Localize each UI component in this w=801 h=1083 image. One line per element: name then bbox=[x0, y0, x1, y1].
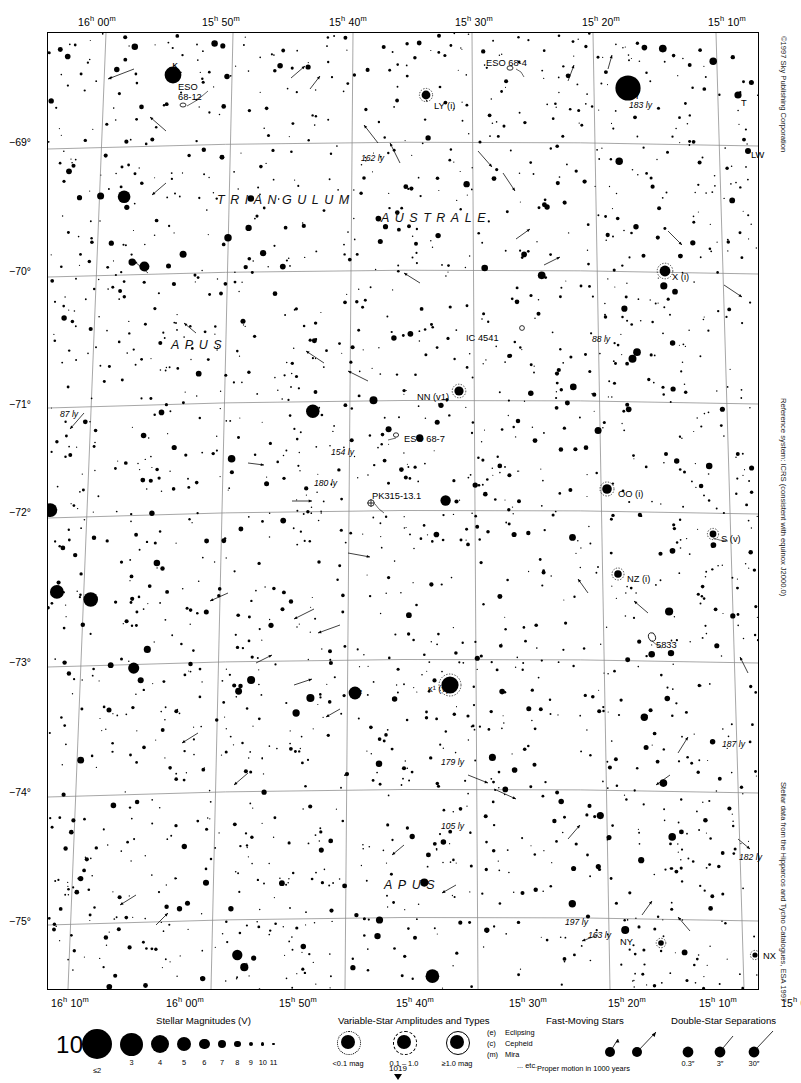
object-label-ic-4541[interactable]: IC 4541 bbox=[466, 333, 499, 343]
ra-gridlines bbox=[68, 33, 744, 989]
label-leader-lines bbox=[187, 69, 728, 648]
legend-fastmoving-symbols bbox=[596, 1028, 668, 1062]
star-chart-page: 16h 00m15h 50m15h 40m15h 30m15h 20m15h 1… bbox=[0, 0, 801, 1083]
sky-map-canvas: .grid{stroke:#8a8a8a;stroke-width:.75;fi… bbox=[48, 33, 758, 989]
legend-doublestar-label-1: 3″ bbox=[717, 1059, 724, 1068]
legend-mag-label-8: 10 bbox=[259, 1058, 267, 1067]
legend-mag-dot-3 bbox=[120, 1033, 143, 1056]
legend-fastmoving-title: Fast-Moving Stars bbox=[546, 1015, 624, 1026]
object-label--[interactable]: κ² bbox=[352, 689, 362, 700]
legend-var-dot-1 bbox=[397, 1035, 411, 1049]
legend-mag-dot-5 bbox=[177, 1037, 191, 1051]
legend-mag-label-9: 11 bbox=[270, 1058, 278, 1067]
constellation-name-australe-1: AUSTRALE bbox=[381, 211, 491, 225]
ra-tick-top-0: 16h 00m bbox=[78, 14, 116, 28]
dec-tick-3: −72° bbox=[9, 506, 31, 518]
ra-tick-top-5: 15h 10m bbox=[708, 14, 746, 28]
legend-var-amp-label-2: ≥1.0 mag bbox=[442, 1059, 473, 1068]
ra-tick-top-1: 15h 50m bbox=[202, 14, 240, 28]
distance-label-0: 162 ly bbox=[361, 153, 384, 163]
object-label--v-[interactable]: κ¹ (v) bbox=[428, 684, 449, 694]
legend-mag-dot-8 bbox=[234, 1041, 240, 1047]
legend-mag-dot-2 bbox=[82, 1029, 112, 1059]
legend-var-type-3: ... etc. bbox=[487, 1061, 537, 1070]
legend-mag-label-2: 4 bbox=[158, 1058, 162, 1067]
object-label--[interactable]: κ bbox=[172, 60, 178, 71]
reference-system-text: Reference system: ICRS (consistent with … bbox=[779, 398, 788, 596]
legend-mag-dot-7 bbox=[218, 1040, 226, 1048]
ra-tick-bottom-4: 15h 30m bbox=[509, 995, 547, 1009]
legend-mag-dot-10 bbox=[261, 1042, 264, 1045]
legend-mag-dot-6 bbox=[199, 1039, 210, 1050]
object-label-nn-v1-[interactable]: NN (v1) bbox=[417, 392, 449, 402]
object-label-eso-68-7[interactable]: ESO 68-7 bbox=[404, 434, 445, 444]
constellation-name-apus-3: APUS bbox=[384, 878, 440, 892]
legend-variables-title: Variable-Star Amplitudes and Types bbox=[338, 1015, 490, 1026]
legend-mag-dot-4 bbox=[151, 1035, 169, 1053]
object-label-pk315-13-1[interactable]: PK315-13.1 bbox=[372, 491, 421, 501]
object-label-eso-68-4[interactable]: ESO 68-4 bbox=[486, 58, 527, 68]
bottom-chart-index: 1019 bbox=[389, 1064, 407, 1073]
legend-mag-dot-9 bbox=[249, 1042, 254, 1047]
distance-label-5: 180 ly bbox=[314, 478, 337, 488]
distance-label-8: 105 ly bbox=[441, 821, 464, 831]
ra-tick-bottom-1: 16h 00m bbox=[166, 995, 204, 1009]
object-label-5833[interactable]: 5833 bbox=[656, 640, 677, 650]
legend-mag-label-4: 6 bbox=[202, 1058, 206, 1067]
distance-label-10: 197 ly bbox=[565, 917, 588, 927]
object-label-x-i-[interactable]: X (i) bbox=[672, 272, 689, 282]
legend-doublestar-symbols bbox=[676, 1028, 776, 1062]
distance-label-2: 88 ly bbox=[592, 334, 610, 344]
copyright-text: ©1997 Sky Publishing Corporation bbox=[779, 36, 788, 152]
dec-tick-4: −73° bbox=[9, 656, 31, 668]
legend-mag-label-0: ≤2 bbox=[93, 1066, 101, 1075]
constellation-name-apus-2: APUS bbox=[171, 338, 227, 352]
legend-mag-label-7: 9 bbox=[249, 1058, 253, 1067]
object-label-s-v-[interactable]: S (v) bbox=[721, 534, 741, 544]
object-label-t[interactable]: T bbox=[741, 98, 747, 108]
distance-label-6: 187 ly bbox=[722, 739, 745, 749]
legend-mag-label-5: 7 bbox=[220, 1058, 224, 1067]
object-label-nx[interactable]: NX bbox=[763, 951, 776, 961]
legend-mag-label-3: 5 bbox=[182, 1058, 186, 1067]
legend-var-type-1: (c)Cepheid bbox=[487, 1039, 533, 1048]
distance-label-1: 183 ly bbox=[629, 100, 652, 110]
legend-fastmoving-caption: Proper motion in 1000 years bbox=[537, 1064, 630, 1073]
legend-var-type-2: (m)Mira bbox=[487, 1050, 519, 1059]
dec-tick-1: −70° bbox=[9, 265, 31, 277]
object-label-nz-i-[interactable]: NZ (i) bbox=[627, 574, 650, 584]
constellation-name-triangulum-0: TRIANGULUM bbox=[217, 193, 355, 207]
bottom-arrow-icon bbox=[394, 1074, 402, 1080]
dec-tick-2: −71° bbox=[9, 398, 31, 410]
ra-tick-bottom-2: 15h 50m bbox=[279, 995, 317, 1009]
sky-map[interactable]: .grid{stroke:#8a8a8a;stroke-width:.75;fi… bbox=[47, 32, 759, 990]
distance-label-7: 179 ly bbox=[441, 757, 464, 767]
legend-doublestar-label-0: 0.3″ bbox=[682, 1059, 695, 1068]
object-label-ny[interactable]: NY bbox=[620, 937, 633, 947]
object-label-oo-i-[interactable]: OO (i) bbox=[618, 489, 643, 499]
object-label-lw[interactable]: LW bbox=[751, 150, 764, 160]
distance-label-9: 182 ly bbox=[739, 852, 762, 862]
dec-tick-0: −69° bbox=[9, 136, 31, 148]
object-label--[interactable]: γ bbox=[634, 88, 640, 99]
legend-var-amp-label-0: <0.1 mag bbox=[332, 1059, 363, 1068]
data-source-text: Stellar data from the Hipparcos and Tych… bbox=[779, 782, 788, 1002]
legend-mag-label-1: 3 bbox=[129, 1058, 133, 1067]
ra-tick-top-3: 15h 30m bbox=[455, 14, 493, 28]
legend-var-dot-0 bbox=[341, 1035, 355, 1049]
distance-label-3: 87 ly bbox=[60, 409, 78, 419]
ra-tick-bottom-0: 16h 10m bbox=[51, 995, 89, 1009]
dec-tick-5: −74° bbox=[9, 786, 31, 798]
legend-mag-label-6: 8 bbox=[235, 1058, 239, 1067]
dec-gridlines bbox=[48, 142, 758, 925]
object-label-ly-i-[interactable]: LY (i) bbox=[434, 101, 455, 111]
ra-tick-top-4: 15h 20m bbox=[582, 14, 620, 28]
legend-mag-dot-11 bbox=[272, 1043, 274, 1045]
ra-tick-bottom-5: 15h 20m bbox=[608, 995, 646, 1009]
dec-tick-6: −75° bbox=[9, 915, 31, 927]
ra-tick-top-2: 15h 40m bbox=[329, 14, 367, 28]
legend-doublestar-label-2: 30″ bbox=[749, 1059, 760, 1068]
legend-doublestar-title: Double-Star Separations bbox=[671, 1015, 776, 1026]
legend-var-type-0: (e)Eclipsing bbox=[487, 1028, 535, 1037]
object-label-eso-68-12[interactable]: ESO68-12 bbox=[178, 82, 202, 102]
